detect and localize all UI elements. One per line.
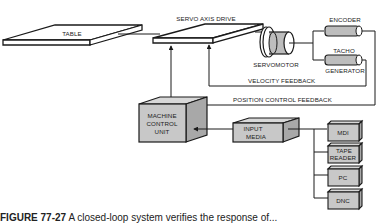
tacho-label-2: GENERATOR (325, 67, 365, 74)
tacho-generator: TACHO GENERATOR (325, 47, 365, 74)
mdi-label: MDI (337, 129, 349, 136)
mcu-label-2: CONTROL (147, 120, 178, 127)
servo-axis-drive-label: SERVO AXIS DRIVE (176, 15, 235, 22)
dnc-label: DNC (336, 197, 350, 204)
machine-control-unit: MACHINE CONTROL UNIT (139, 97, 207, 142)
source-pc: PC (328, 166, 362, 186)
servo-axis-drive: SERVO AXIS DRIVE (153, 15, 263, 43)
mcu-label-3: UNIT (155, 128, 170, 135)
input-media-label-2: MEDIA (246, 133, 267, 140)
input-media-label-1: INPUT (243, 125, 262, 132)
source-mdi: MDI (328, 121, 362, 141)
cnc-closed-loop-diagram: TABLE SERVO AXIS DRIVE SERVOMOTOR ENCODE… (0, 0, 383, 224)
figure-caption: FIGURE 77-27 A closed-loop system verifi… (0, 212, 277, 223)
tape-label-2: READER (330, 154, 357, 161)
input-media: INPUT MEDIA (233, 118, 299, 142)
tacho-label-1: TACHO (333, 47, 355, 54)
encoder: ENCODER (325, 16, 362, 36)
source-dnc: DNC (328, 189, 362, 209)
source-tape-reader: TAPE READER (328, 143, 362, 163)
figure-caption-text: A closed-loop system verifies the respon… (68, 212, 277, 223)
tape-label-1: TAPE (336, 147, 352, 154)
servomotor: SERVOMOTOR (253, 27, 313, 68)
table-slab: TABLE (3, 25, 142, 45)
servomotor-label: SERVOMOTOR (253, 61, 299, 68)
velocity-feedback-label: VELOCITY FEEDBACK (248, 77, 316, 84)
position-feedback-label: POSITION CONTROL FEEDBACK (233, 96, 333, 103)
mcu-label-1: MACHINE (147, 112, 176, 119)
encoder-label: ENCODER (329, 16, 361, 23)
pc-label: PC (339, 174, 348, 181)
figure-number: FIGURE 77-27 (0, 212, 66, 223)
table-label: TABLE (62, 30, 82, 37)
